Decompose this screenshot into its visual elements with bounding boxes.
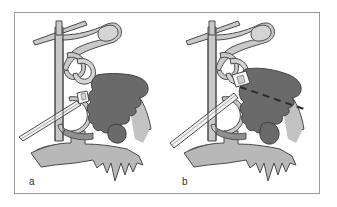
lesion-lobule-lower-a xyxy=(108,124,126,143)
figure-root: a xyxy=(0,0,337,207)
superior-projection-right-a xyxy=(63,21,87,33)
superior-projection-right-b xyxy=(216,21,240,33)
panel-a-label: a xyxy=(29,177,35,187)
superior-projection-left-a xyxy=(33,33,55,45)
panel-b: b xyxy=(168,13,321,193)
instrument-tip-window-a xyxy=(81,93,86,100)
panel-a-illustration xyxy=(15,13,168,193)
panel-a: a xyxy=(15,13,168,193)
superior-projection-left-b xyxy=(186,33,208,45)
panel-b-illustration xyxy=(168,13,321,193)
crista-galli-b xyxy=(209,21,215,35)
lesion-lobule-lower-b xyxy=(260,122,279,144)
figure-frame: a xyxy=(14,12,320,194)
panel-b-label: b xyxy=(182,177,188,187)
crista-galli-a xyxy=(56,21,62,35)
